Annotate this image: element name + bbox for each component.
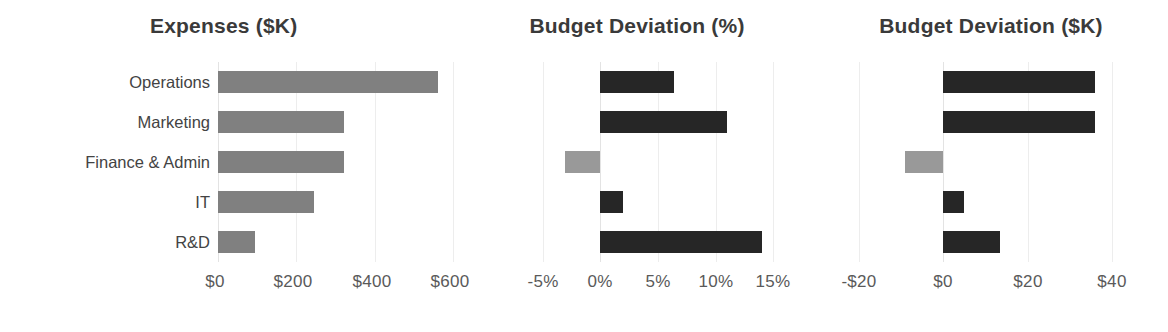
panel-title-budget-deviation-dollars: Budget Deviation ($K)	[814, 14, 1168, 38]
bar-deviation-usd-finance-admin	[905, 151, 943, 173]
bar-row-it	[218, 182, 450, 222]
bar-row-marketing	[855, 102, 1127, 142]
plot-area-budget-deviation-dollars	[855, 62, 1127, 262]
plot-area-budget-deviation-percent	[543, 62, 775, 262]
panel-title-budget-deviation-percent: Budget Deviation (%)	[460, 14, 814, 38]
panel-title-expenses: Expenses ($K)	[0, 14, 297, 38]
bar-deviation-pct-it	[600, 191, 623, 213]
bar-row-rd	[218, 222, 450, 262]
multi-panel-bar-chart-figure: Operations Marketing Finance & Admin IT …	[0, 0, 1168, 332]
panel-budget-deviation-percent: Budget Deviation (%) -5%	[460, 0, 814, 332]
bar-deviation-usd-it	[943, 191, 964, 213]
gridline-600	[453, 62, 454, 262]
plot-area-expenses	[218, 62, 450, 262]
bar-deviation-pct-operations	[600, 71, 674, 93]
bar-deviation-pct-finance-admin	[565, 151, 600, 173]
xtick-deviation-pct-15: 15%	[756, 272, 791, 292]
bar-expenses-it	[218, 191, 314, 213]
bar-deviation-pct-rd	[600, 231, 762, 253]
xtick-deviation-usd-neg20: -$20	[841, 272, 876, 292]
xtick-deviation-pct-0: 0%	[587, 272, 612, 292]
xtick-deviation-usd-0: $0	[933, 272, 953, 292]
xtick-deviation-pct-10: 10%	[699, 272, 734, 292]
xtick-expenses-400: $400	[352, 272, 391, 292]
panel-expenses: Expenses ($K) $0 $200 $400 $	[0, 0, 460, 332]
bar-row-operations	[543, 62, 775, 102]
bar-deviation-pct-marketing	[600, 111, 727, 133]
bar-row-finance-admin	[855, 142, 1127, 182]
bar-deviation-usd-rd	[943, 231, 1000, 253]
bar-deviation-usd-marketing	[943, 111, 1095, 133]
bar-deviation-usd-operations	[943, 71, 1095, 93]
xtick-expenses-200: $200	[273, 272, 312, 292]
bar-row-marketing	[543, 102, 775, 142]
bar-expenses-marketing	[218, 111, 344, 133]
bar-row-rd	[543, 222, 775, 262]
bar-row-rd	[855, 222, 1127, 262]
bar-expenses-operations	[218, 71, 438, 93]
bar-row-operations	[855, 62, 1127, 102]
bar-row-finance-admin	[218, 142, 450, 182]
bar-expenses-rd	[218, 231, 255, 253]
bar-row-it	[855, 182, 1127, 222]
bar-row-finance-admin	[543, 142, 775, 182]
bar-row-operations	[218, 62, 450, 102]
bar-expenses-finance-admin	[218, 151, 344, 173]
xtick-deviation-pct-5: 5%	[645, 272, 670, 292]
xtick-expenses-0: $0	[205, 272, 225, 292]
bar-row-it	[543, 182, 775, 222]
xtick-deviation-usd-20: $20	[1013, 272, 1042, 292]
xtick-deviation-usd-40: $40	[1097, 272, 1126, 292]
bar-row-marketing	[218, 102, 450, 142]
panel-budget-deviation-dollars: Budget Deviation ($K) -$20 $0	[814, 0, 1168, 332]
xtick-deviation-pct-neg5: -5%	[527, 272, 558, 292]
